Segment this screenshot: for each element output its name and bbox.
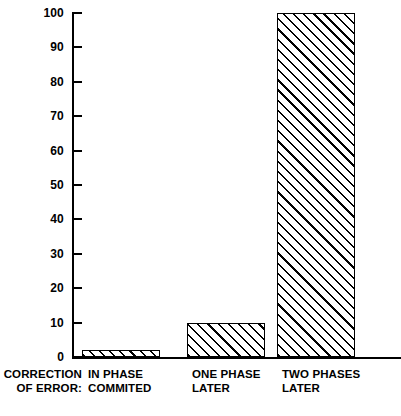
y-axis-tick-label: 20 <box>0 282 64 294</box>
y-axis-tick <box>74 287 82 289</box>
y-axis-tick <box>74 115 82 117</box>
x-axis-line <box>72 357 401 359</box>
x-axis-label: TWO PHASESLATER <box>282 368 360 395</box>
y-axis-tick <box>74 81 82 83</box>
x-axis-label-line1: TWO PHASES <box>282 368 360 382</box>
y-axis-tick-label: 80 <box>0 76 64 88</box>
y-axis-tick-label: 50 <box>0 179 64 191</box>
y-axis-tick-label: 0 <box>0 351 64 363</box>
axis-caption: CORRECTION OF ERROR: <box>0 368 82 395</box>
y-axis-tick <box>74 150 82 152</box>
y-axis-tick <box>74 12 82 14</box>
y-axis-tick <box>74 356 82 358</box>
x-axis-label-line1: IN PHASE <box>88 368 151 382</box>
y-axis-tick-label: 40 <box>0 213 64 225</box>
y-axis-tick <box>74 322 82 324</box>
bar <box>277 13 355 357</box>
y-axis-tick <box>74 184 82 186</box>
y-axis-tick-label: 60 <box>0 145 64 157</box>
x-axis-label-line1: ONE PHASE <box>192 368 261 382</box>
y-axis-tick-label: 90 <box>0 41 64 53</box>
x-axis-label-line2: LATER <box>192 382 261 396</box>
y-axis-tick <box>74 253 82 255</box>
x-axis-label: IN PHASECOMMITED <box>88 368 151 395</box>
bar <box>187 323 265 357</box>
y-axis-tick-label: 70 <box>0 110 64 122</box>
x-axis-label-line2: COMMITED <box>88 382 151 396</box>
y-axis-tick <box>74 218 82 220</box>
y-axis-tick-label: 10 <box>0 317 64 329</box>
y-axis-tick <box>74 46 82 48</box>
bar-chart: 0102030405060708090100 CORRECTION OF ERR… <box>0 0 401 416</box>
x-axis-label: ONE PHASELATER <box>192 368 261 395</box>
y-axis-tick-label: 100 <box>0 7 64 19</box>
y-axis-tick-label: 30 <box>0 248 64 260</box>
x-axis-label-line2: LATER <box>282 382 360 396</box>
bar <box>82 350 160 357</box>
